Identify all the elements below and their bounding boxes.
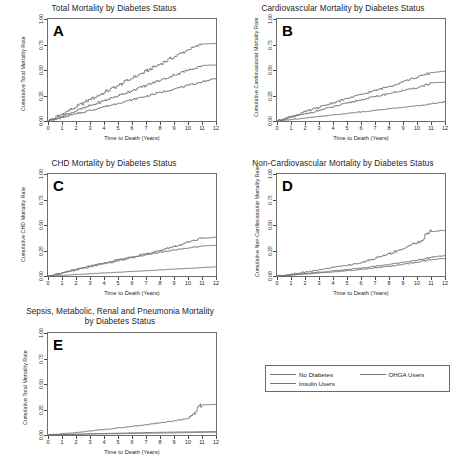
x-tick-label: 8 [154, 280, 166, 286]
y-tick-mark [44, 70, 47, 71]
x-tick-label: 2 [70, 439, 82, 445]
x-tick-label: 10 [182, 125, 194, 131]
x-tick-label: 12 [439, 125, 451, 131]
y-tick-label: 0.50 [38, 376, 44, 392]
x-tick-label: 7 [369, 125, 381, 131]
panel-c-title: CHD Mortality by Diabetes Status [0, 159, 228, 169]
legend-label-ohga-users: OHGA Users [389, 371, 425, 378]
y-tick-mark [44, 359, 47, 360]
panel-d-title: Non-Cardiovascular Mortality by Diabetes… [229, 159, 457, 169]
series-line [277, 101, 445, 121]
y-tick-label: 0.25 [38, 88, 44, 104]
x-tick-label: 4 [98, 125, 110, 131]
x-tick-label: 0 [42, 125, 54, 131]
series-line [48, 78, 216, 121]
x-tick-label: 1 [285, 280, 297, 286]
legend-line-insulin-users [270, 383, 296, 384]
y-tick-mark [44, 384, 47, 385]
x-tick-label: 6 [126, 125, 138, 131]
panel-b-y-axis-label: Cumulative Cardiovascular Mortality Rate [253, 23, 259, 117]
x-tick-label: 10 [182, 439, 194, 445]
panel-e-letter: E [53, 337, 63, 352]
x-tick-label: 1 [285, 125, 297, 131]
x-tick-label: 7 [369, 280, 381, 286]
x-tick-label: 9 [168, 125, 180, 131]
panel-a-title: Total Mortality by Diabetes Status [0, 4, 228, 14]
panel-b-title: Cardiovascular Mortality by Diabetes Sta… [229, 4, 457, 14]
panel-a-plot [47, 18, 217, 122]
x-tick-label: 12 [210, 125, 222, 131]
panel-d-plot [276, 173, 446, 277]
x-tick-label: 4 [98, 439, 110, 445]
x-tick-label: 10 [411, 280, 423, 286]
figure-root: Total Mortality by Diabetes Status Cumul… [0, 0, 457, 455]
x-tick-label: 10 [182, 280, 194, 286]
x-tick-label: 3 [84, 439, 96, 445]
y-tick-label: 0.50 [38, 217, 44, 233]
x-tick-label: 8 [154, 125, 166, 131]
y-tick-mark [273, 225, 276, 226]
y-tick-mark [273, 19, 276, 20]
y-tick-label: 0.75 [267, 192, 273, 208]
x-tick-label: 11 [425, 280, 437, 286]
y-tick-label: 0.75 [38, 192, 44, 208]
series-line [277, 82, 445, 121]
y-tick-mark [273, 276, 276, 277]
panel-b-plot [276, 18, 446, 122]
x-tick-label: 2 [299, 125, 311, 131]
y-tick-label: 0.25 [38, 402, 44, 418]
legend-line-ohga-users [360, 374, 386, 375]
y-tick-mark [44, 333, 47, 334]
y-tick-label: 0.75 [267, 37, 273, 53]
x-tick-label: 7 [140, 439, 152, 445]
y-tick-mark [44, 45, 47, 46]
legend-label-no-diabetes: No Diabetes [299, 371, 333, 378]
panel-e-x-axis-label: Time to Death (Years) [47, 449, 217, 455]
series-line [48, 404, 216, 435]
y-tick-label: 0.25 [267, 243, 273, 259]
x-tick-label: 6 [355, 125, 367, 131]
y-tick-mark [44, 174, 47, 175]
panel-d-letter: D [282, 178, 293, 193]
y-tick-mark [44, 200, 47, 201]
y-tick-mark [44, 251, 47, 252]
y-tick-label: 1.00 [267, 166, 273, 182]
x-tick-label: 0 [271, 280, 283, 286]
series-line [48, 65, 216, 121]
panel-b-x-axis-label: Time to Death (Years) [276, 135, 446, 141]
y-tick-label: 0.75 [38, 351, 44, 367]
x-tick-label: 2 [70, 280, 82, 286]
x-tick-label: 3 [313, 125, 325, 131]
x-tick-label: 9 [397, 280, 409, 286]
panel-d-y-axis-label: Cumulative Non-Cardiovascular Mortality … [254, 173, 260, 277]
panel-e: Sepsis, Metabolic, Renal and Pneumonia M… [0, 305, 240, 455]
x-tick-label: 4 [98, 280, 110, 286]
y-tick-label: 0.75 [38, 37, 44, 53]
panel-a: Total Mortality by Diabetes Status Cumul… [0, 2, 228, 154]
legend-item-insulin-users: Insulin Users [270, 380, 356, 387]
y-tick-label: 0.50 [267, 217, 273, 233]
legend-item-no-diabetes: No Diabetes [270, 371, 356, 378]
x-tick-label: 7 [140, 125, 152, 131]
y-tick-mark [44, 410, 47, 411]
x-tick-label: 3 [84, 280, 96, 286]
x-tick-label: 7 [140, 280, 152, 286]
x-tick-label: 0 [271, 125, 283, 131]
x-tick-label: 1 [56, 125, 68, 131]
x-tick-label: 5 [341, 125, 353, 131]
x-tick-label: 9 [168, 280, 180, 286]
panel-d-x-axis-label: Time to Death (Years) [276, 290, 446, 296]
panel-c-letter: C [53, 178, 64, 193]
panel-a-x-axis-label: Time to Death (Years) [47, 135, 217, 141]
x-tick-label: 11 [196, 125, 208, 131]
y-tick-mark [273, 251, 276, 252]
y-tick-mark [44, 96, 47, 97]
x-tick-label: 2 [299, 280, 311, 286]
x-tick-label: 9 [168, 439, 180, 445]
y-tick-label: 1.00 [38, 11, 44, 27]
x-tick-label: 12 [210, 439, 222, 445]
x-tick-label: 2 [70, 125, 82, 131]
y-tick-mark [44, 435, 47, 436]
series-line [277, 71, 445, 121]
y-tick-label: 1.00 [38, 325, 44, 341]
